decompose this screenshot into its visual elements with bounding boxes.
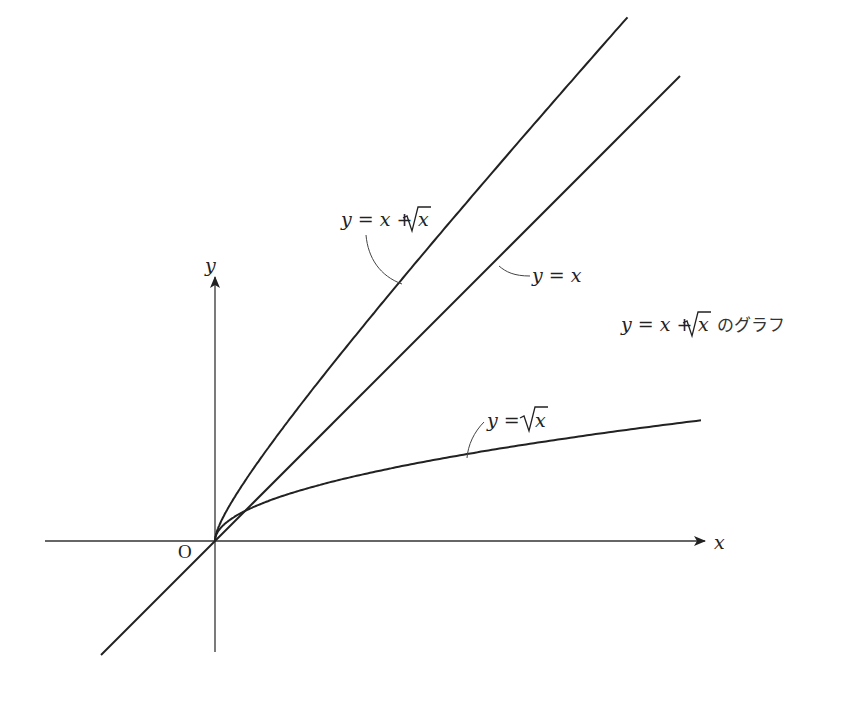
- label-sqrt: y = x: [486, 407, 548, 431]
- leader-line-sum: [366, 235, 402, 284]
- y-axis-label: y: [204, 254, 216, 276]
- svg-text:y =: y =: [486, 409, 526, 431]
- svg-text:のグラフ: のグラフ: [712, 315, 785, 335]
- label-linear: y = x: [531, 264, 582, 286]
- leader-line-linear: [499, 266, 530, 276]
- graph-caption: y = x + x のグラフ: [620, 312, 785, 336]
- svg-text:y = x +: y = x +: [340, 208, 418, 230]
- svg-text:x: x: [418, 208, 429, 230]
- function-graph: x y O y = x + x y = x y = x y = x + x のグ…: [0, 0, 845, 701]
- origin-label: O: [178, 541, 192, 562]
- label-sum: y = x + x: [340, 207, 431, 231]
- svg-text:x: x: [535, 409, 546, 431]
- x-axis-label: x: [714, 531, 725, 553]
- svg-text:y = x +: y = x +: [620, 313, 698, 335]
- curve-y-equals-x: [101, 76, 680, 655]
- svg-text:x: x: [698, 313, 709, 335]
- curve-sqrt-x: [215, 420, 701, 541]
